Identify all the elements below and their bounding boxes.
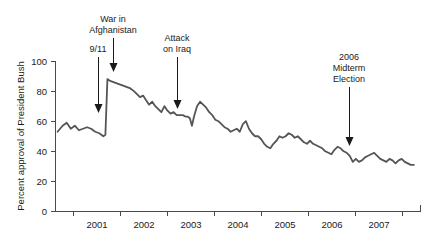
annotation-midterm-line2: Midterm (333, 63, 366, 73)
approval-series-line (58, 79, 414, 165)
annotation-attack-iraq-line2: on Iraq (163, 44, 191, 54)
x-tick-marks (74, 212, 403, 217)
chart-page: 100 80 60 40 20 0 2001 2002 2003 2004 20… (0, 0, 429, 249)
annotation-midterm-2006: 2006 Midterm Election (333, 52, 366, 146)
x-tick-label-2007: 2007 (368, 219, 389, 230)
y-tick-labels: 100 80 60 40 20 0 (31, 56, 47, 217)
x-tick-label-2002: 2002 (133, 219, 154, 230)
y-tick-label-0: 0 (42, 206, 47, 217)
y-tick-label-20: 20 (36, 176, 47, 187)
annotation-nine-eleven-label: 9/11 (90, 44, 107, 54)
x-tick-label-2006: 2006 (321, 219, 342, 230)
y-tick-marks (51, 62, 56, 212)
annotation-war-afghanistan: War in Afghanistan (89, 14, 137, 72)
y-tick-label-60: 60 (36, 116, 47, 127)
approval-line-chart: 100 80 60 40 20 0 2001 2002 2003 2004 20… (0, 0, 429, 249)
annotation-war-afghanistan-line1: War in (100, 14, 126, 24)
y-tick-label-80: 80 (36, 86, 47, 97)
x-tick-labels: 2001 2002 2003 2004 2005 2006 2007 (86, 219, 389, 230)
annotation-nine-eleven: 9/11 (90, 44, 107, 113)
annotation-attack-iraq-line1: Attack (164, 33, 190, 43)
arrowhead-icon (346, 137, 354, 146)
y-tick-label-100: 100 (31, 56, 47, 67)
annotation-midterm-line3: Election (333, 74, 365, 84)
arrowhead-icon (174, 100, 182, 109)
x-tick-label-2003: 2003 (180, 219, 201, 230)
x-tick-label-2005: 2005 (274, 219, 295, 230)
x-tick-label-2001: 2001 (86, 219, 107, 230)
arrowhead-icon (95, 104, 103, 113)
annotation-attack-iraq: Attack on Iraq (163, 33, 191, 109)
y-axis-title: Percent approval of President Bush (15, 61, 26, 210)
annotation-midterm-line1: 2006 (339, 52, 359, 62)
annotation-war-afghanistan-line2: Afghanistan (89, 25, 137, 35)
y-tick-label-40: 40 (36, 146, 47, 157)
x-tick-label-2004: 2004 (227, 219, 248, 230)
arrowhead-icon (110, 63, 118, 72)
